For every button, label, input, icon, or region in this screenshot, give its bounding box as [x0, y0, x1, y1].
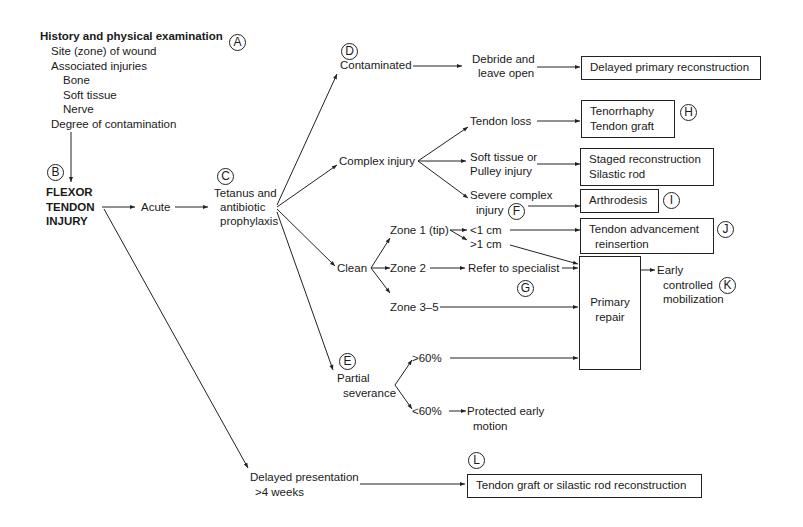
early-line: controlled	[663, 278, 713, 293]
staged-line: Staged reconstruction	[589, 152, 705, 167]
arthrodesis-box: Arthrodesis	[580, 189, 659, 213]
gt60-label: >60%	[412, 351, 442, 366]
lt60-label: <60%	[412, 404, 442, 419]
early-line: mobilization	[663, 292, 724, 307]
root-line: TENDON	[46, 200, 95, 215]
tendon-loss-label: Tendon loss	[470, 114, 531, 129]
marker-h: H	[680, 104, 697, 121]
history-item: Nerve	[63, 102, 94, 117]
zone35-label: Zone 3–5	[390, 300, 439, 315]
graft-rod-box: Tendon graft or silastic rod reconstruct…	[467, 474, 702, 498]
staged-line: Silastic rod	[589, 167, 705, 182]
marker-j: J	[717, 221, 734, 238]
edge-clean-zone35	[371, 268, 390, 293]
edge-complex-tendonloss	[418, 127, 468, 161]
marker-a: A	[229, 34, 246, 51]
zone1-label: Zone 1 (tip)	[390, 223, 449, 238]
complex-injury-label: Complex injury	[339, 154, 415, 169]
protected-line: motion	[473, 419, 508, 434]
severe-line: injury	[476, 203, 503, 218]
early-line: Early	[657, 263, 683, 278]
root-line: INJURY	[46, 214, 88, 229]
advancement-line: reinsertion	[589, 237, 705, 252]
root-line: FLEXOR	[46, 185, 93, 200]
marker-g: G	[517, 280, 534, 297]
primary-repair-line: Primary	[588, 295, 632, 310]
prophylaxis-line: Tetanus and	[214, 186, 277, 201]
history-title: History and physical examination	[40, 29, 223, 44]
prophylaxis-line: prophylaxis	[220, 214, 278, 229]
zone2-label: Zone 2	[390, 261, 426, 276]
clean-label: Clean	[337, 261, 367, 276]
marker-c: C	[217, 168, 234, 185]
edge-root-delayed	[104, 209, 248, 468]
primary-repair-box: Primary repair	[579, 256, 641, 370]
severe-line: Severe complex	[470, 188, 552, 203]
prophylaxis-line: antibiotic	[220, 200, 265, 215]
acute-label: Acute	[141, 200, 170, 215]
delayed-presentation-line: Delayed presentation	[250, 470, 359, 485]
tenorrhaphy-line: Tendon graft	[590, 119, 666, 134]
edge-c-contaminated	[277, 74, 337, 205]
partial-line: severance	[343, 386, 396, 401]
debride-line: Debride and	[472, 52, 535, 67]
edge-clean-zone1	[371, 238, 390, 268]
delayed-presentation-line: >4 weeks	[255, 485, 304, 500]
edge-zone1-gt1	[450, 230, 467, 240]
marker-l: L	[468, 452, 485, 469]
protected-line: Protected early	[467, 404, 544, 419]
advancement-line: Tendon advancement	[589, 222, 705, 237]
lt1cm-label: <1 cm	[470, 223, 502, 238]
marker-i: I	[663, 192, 680, 209]
primary-repair-line: repair	[588, 310, 632, 325]
partial-line: Partial	[337, 371, 370, 386]
gt1cm-label: >1 cm	[470, 237, 502, 252]
marker-b: B	[47, 164, 64, 181]
edge-partial-gt60	[395, 360, 412, 385]
edge-complex-severe	[418, 161, 468, 198]
tenorrhaphy-line: Tenorrhaphy	[590, 104, 666, 119]
contaminated-label: Contaminated	[340, 58, 412, 73]
marker-e: E	[339, 353, 356, 370]
history-item: Degree of contamination	[51, 117, 176, 132]
tenorrhaphy-box: Tenorrhaphy Tendon graft	[581, 100, 675, 138]
history-item: Bone	[63, 73, 90, 88]
soft-tissue-line: Soft tissue or	[470, 150, 537, 165]
edge-partial-lt60	[395, 385, 412, 409]
edge-c-partial	[277, 212, 333, 370]
advancement-box: Tendon advancement reinsertion	[580, 218, 714, 254]
history-item: Associated injuries	[51, 59, 147, 74]
soft-tissue-line: Pulley injury	[470, 164, 532, 179]
refer-label: Refer to specialist	[468, 261, 559, 276]
history-item: Site (zone) of wound	[51, 44, 156, 59]
delayed-primary-box: Delayed primary reconstruction	[581, 56, 761, 80]
staged-box: Staged reconstruction Silastic rod	[580, 148, 714, 186]
debride-line: leave open	[478, 66, 534, 81]
marker-k: K	[719, 277, 736, 294]
history-item: Soft tissue	[63, 88, 117, 103]
marker-f: F	[508, 203, 525, 220]
